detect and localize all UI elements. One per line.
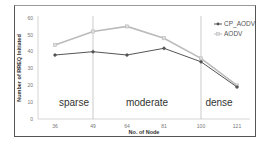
data-series — [53, 25, 239, 89]
data-point — [125, 25, 128, 28]
region-label-sparse: sparse — [59, 97, 89, 108]
region-labels: sparsemoderatedense — [59, 97, 233, 108]
series-line-CP_AODV — [55, 48, 237, 87]
data-point — [162, 37, 165, 40]
y-tick-label: 10 — [27, 99, 33, 105]
y-tick-labels: 0102030405060 — [27, 15, 33, 122]
x-tick-label: 81 — [161, 123, 167, 129]
x-tick-label: 121 — [233, 123, 242, 129]
data-point — [53, 43, 56, 46]
y-axis-title: Number of RREQ Initiated — [16, 34, 22, 102]
x-tick-label: 36 — [52, 123, 58, 129]
legend-label-CP_AODV: CP_AODV — [224, 20, 256, 28]
region-label-moderate: moderate — [126, 97, 169, 108]
y-tick-label: 30 — [27, 65, 33, 71]
y-tick-label: 20 — [27, 82, 33, 88]
legend-label-AODV: AODV — [224, 30, 243, 37]
y-tick-label: 0 — [30, 116, 33, 122]
series-line-AODV — [55, 26, 237, 85]
legend: CP_AODVAODV — [214, 20, 256, 37]
x-axis-title: No. of Node — [129, 129, 160, 135]
x-tick-label: 49 — [90, 123, 96, 129]
region-label-dense: dense — [205, 97, 233, 108]
y-tick-label: 50 — [27, 32, 33, 38]
data-point — [199, 57, 202, 60]
y-tick-label: 60 — [27, 15, 33, 21]
x-tick-label: 100 — [197, 123, 206, 129]
data-point — [91, 30, 94, 33]
y-tick-label: 40 — [27, 48, 33, 54]
line-chart: 0102030405060 36496481100121 sparsemoder… — [0, 0, 268, 146]
